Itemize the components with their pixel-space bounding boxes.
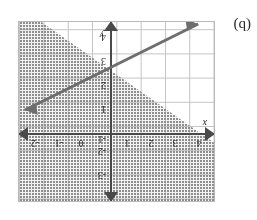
y-tick-label: -2	[98, 146, 106, 156]
x-tick-label: -2	[31, 138, 39, 148]
figure-caption: (b)	[234, 17, 252, 34]
x-axis-label: x	[203, 118, 207, 129]
x-tick-label: 1	[125, 138, 130, 148]
x-axis-line	[19, 133, 214, 135]
y-tick-label: -3	[98, 170, 106, 180]
x-axis-arrow-left-icon	[205, 127, 215, 141]
x-axis-arrow-right-icon	[18, 127, 28, 141]
y-axis-arrow-bottom-icon	[104, 21, 118, 31]
x-tick-label: 2	[149, 138, 154, 148]
y-tick-label: 1	[101, 104, 106, 114]
x-tick-label: 0	[79, 138, 84, 148]
rotated-figure-container: -2 -1 0 1 2 3 4 5 -3 -2 -1 1 2 3 4 x y (…	[0, 0, 257, 220]
x-tick-label: -1	[55, 138, 63, 148]
y-tick-label: -1	[98, 134, 106, 144]
x-tick-label: 3	[173, 138, 178, 148]
y-tick-label: 2	[101, 80, 106, 90]
y-axis-arrow-top-icon	[104, 192, 118, 202]
y-axis-line	[110, 22, 112, 201]
x-tick-label: 4	[197, 138, 202, 148]
y-axis-label: y	[100, 30, 104, 41]
y-tick-label: 3	[101, 56, 106, 66]
plot-frame: -2 -1 0 1 2 3 4 5 -3 -2 -1 1 2 3 4 x y	[18, 21, 215, 202]
